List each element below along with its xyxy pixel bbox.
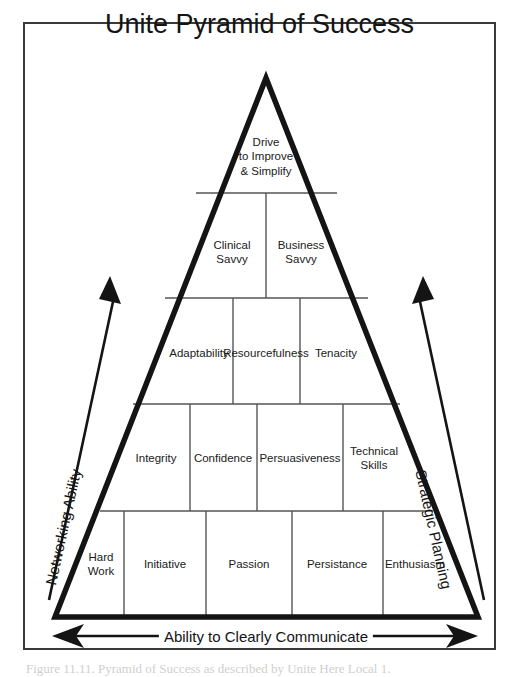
figure-caption: Figure 11.11. Pyramid of Success as desc… xyxy=(26,661,496,677)
figure-root: Unite Pyramid of Success xyxy=(0,0,519,677)
right-axis-arrow xyxy=(412,276,484,600)
pyramid-outline xyxy=(55,78,478,617)
cell-divider-lines xyxy=(124,193,383,617)
axis-label-ability-to-clearly-communicate: Ability to Clearly Communicate xyxy=(159,628,373,645)
